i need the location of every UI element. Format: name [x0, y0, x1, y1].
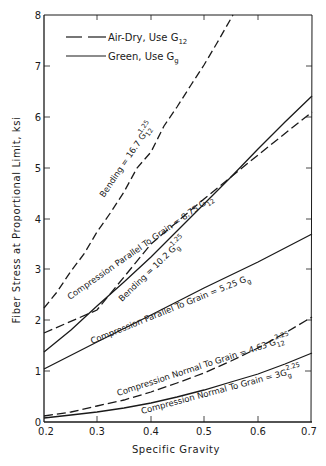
svg-text:0.2: 0.2 [38, 426, 54, 437]
svg-text:7: 7 [35, 61, 41, 72]
chart: 8 7 6 5 4 3 2 1 0 0.2 0.3 0.4 0.5 0.6 0.… [0, 0, 326, 466]
svg-text:5: 5 [35, 163, 41, 174]
svg-text:1: 1 [35, 366, 41, 377]
x-axis-title: Specific Gravity [132, 444, 220, 455]
svg-text:0.7: 0.7 [301, 426, 317, 437]
x-tick-labels: 0.2 0.3 0.4 0.5 0.6 0.7 [38, 426, 317, 437]
legend-green: Green, Use Gg [108, 51, 179, 65]
curve-labels: Bending = 16.7 G121.25 Compression Paral… [65, 118, 302, 418]
legend: Air-Dry, Use G12 Green, Use Gg [66, 32, 187, 65]
label-cnorm-green: Compression Normal To Grain = 3Gg2.25 [139, 361, 303, 419]
curve-cnorm-green [44, 353, 312, 418]
svg-text:4: 4 [35, 214, 41, 225]
svg-text:6: 6 [35, 112, 41, 123]
y-tick-labels: 8 7 6 5 4 3 2 1 0 [35, 10, 41, 428]
svg-text:0.5: 0.5 [196, 426, 212, 437]
label-cpar-air-dry: Compression Parallel To Grain = 8.75 G12 [65, 193, 216, 304]
svg-text:3: 3 [35, 264, 41, 275]
svg-text:8: 8 [35, 10, 41, 21]
svg-text:2: 2 [35, 315, 41, 326]
y-axis-title: Fiber Stress at Proportional Limit, ksi [11, 117, 22, 324]
svg-text:0.3: 0.3 [89, 426, 105, 437]
label-cpar-green: Compression Parallel To Grain = 5.25 Gg [89, 272, 253, 348]
svg-text:0.4: 0.4 [143, 426, 159, 437]
legend-air-dry: Air-Dry, Use G12 [108, 32, 187, 46]
svg-text:0.6: 0.6 [250, 426, 266, 437]
